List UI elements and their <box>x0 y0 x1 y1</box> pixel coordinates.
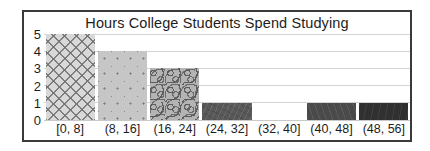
x-axis: [0, 8](8, 16](16, 24](24, 32](32, 40](40… <box>44 122 410 136</box>
y-axis-tick-label: 4 <box>34 45 41 58</box>
y-axis-tick-label: 2 <box>34 79 41 92</box>
x-axis-tick-label: (40, 48] <box>305 122 357 136</box>
x-axis-tick-label: (24, 32] <box>201 122 253 136</box>
x-axis-tick-label: (16, 24] <box>149 122 201 136</box>
bar-slot <box>253 34 305 120</box>
y-axis-tick-label: 1 <box>34 96 41 109</box>
bar-slot <box>44 34 96 120</box>
y-axis-tick-label: 5 <box>34 28 41 41</box>
plot-area <box>44 34 410 120</box>
bar-slot <box>201 34 253 120</box>
y-axis-tick-label: 3 <box>34 62 41 75</box>
bar <box>150 68 199 120</box>
bar-slot <box>305 34 357 120</box>
bar <box>98 51 147 120</box>
bar <box>202 103 251 120</box>
y-axis: 543210 <box>24 34 44 120</box>
bar <box>359 103 408 120</box>
bar-slot <box>149 34 201 120</box>
chart-title: Hours College Students Spend Studying <box>24 15 410 31</box>
y-axis-tick-label: 0 <box>34 114 41 127</box>
x-axis-tick-label: (32, 40] <box>253 122 305 136</box>
x-axis-tick-label: [0, 8] <box>44 122 96 136</box>
bar-slot <box>96 34 148 120</box>
bar-slot <box>358 34 410 120</box>
chart-frame: Hours College Students Spend Studying 54… <box>22 10 412 142</box>
bar <box>46 34 95 120</box>
x-axis-tick-label: (8, 16] <box>96 122 148 136</box>
bar-series <box>44 34 410 120</box>
bar <box>307 103 356 120</box>
x-axis-tick-label: (48, 56] <box>358 122 410 136</box>
